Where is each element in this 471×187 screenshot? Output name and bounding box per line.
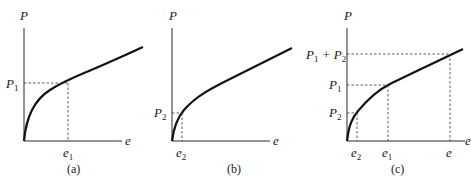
load-elongation-diagram: P e P1 e1 (a) P e P2 e2 (b) P e P1 + P2 … xyxy=(0,0,471,187)
panel-a: P e P1 e1 (a) xyxy=(5,8,143,176)
y-mark-p1: P1 xyxy=(5,76,18,93)
x-mark-e2: e2 xyxy=(176,145,186,162)
load-curve xyxy=(172,48,292,141)
caption-a: (a) xyxy=(67,162,80,176)
load-curve xyxy=(24,47,143,141)
x-mark-e: e xyxy=(446,145,452,160)
y-mark-p1: P1 xyxy=(328,77,341,94)
y-mark-p1-plus-p2: P1 + P2 xyxy=(305,47,346,64)
panel-b: P e P2 e2 (b) xyxy=(153,8,292,176)
x-axis-label: e xyxy=(465,133,471,148)
x-axis-label: e xyxy=(273,133,279,148)
x-mark-e2: e2 xyxy=(351,145,361,162)
y-axis-label: P xyxy=(19,8,28,23)
x-mark-e1: e1 xyxy=(382,145,392,162)
caption-b: (b) xyxy=(227,162,241,176)
caption-c: (c) xyxy=(391,162,404,176)
y-mark-p2: P2 xyxy=(328,105,341,122)
x-axis-label: e xyxy=(125,133,131,148)
y-mark-p2: P2 xyxy=(153,105,166,122)
x-mark-e1: e1 xyxy=(63,145,73,162)
y-axis-label: P xyxy=(168,8,177,23)
load-curve xyxy=(347,49,463,141)
y-axis-label: P xyxy=(343,8,352,23)
panel-c: P e P1 + P2 P1 P2 e2 e1 e (c) xyxy=(305,8,471,176)
